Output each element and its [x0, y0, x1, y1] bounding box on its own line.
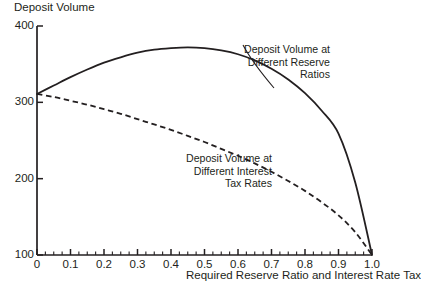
- y-tick-label: 400: [0, 19, 34, 33]
- x-tick-label: 0.4: [155, 258, 187, 272]
- y-tick-label: 300: [0, 95, 34, 109]
- annotation-reserve-line-1: Deposit Volume at: [244, 43, 330, 56]
- annotation-tax-line-2: Different Interest: [186, 165, 272, 178]
- annotation-reserve-ratios: Deposit Volume at Different Reserve Rati…: [244, 43, 330, 81]
- x-tick-label: 0.3: [122, 258, 154, 272]
- x-tick-label: 0.5: [189, 258, 221, 272]
- x-tick-label: 0.1: [55, 258, 87, 272]
- y-tick-label: 200: [0, 172, 34, 186]
- x-tick-label: 0.2: [88, 258, 120, 272]
- x-tick-label: 0.9: [323, 258, 355, 272]
- annotation-tax-line-1: Deposit Volume at: [186, 152, 272, 165]
- annotation-interest-tax: Deposit Volume at Different Interest Tax…: [186, 152, 272, 190]
- x-tick-label: 0.7: [256, 258, 288, 272]
- y-axis-title: Deposit Volume: [14, 1, 95, 15]
- x-tick-label: 0.8: [289, 258, 321, 272]
- annotation-reserve-line-2: Different Reserve: [244, 56, 330, 69]
- x-tick-label: 1.0: [356, 258, 388, 272]
- annotation-tax-line-3: Tax Rates: [186, 177, 272, 190]
- x-tick-label: 0.6: [222, 258, 254, 272]
- x-tick-label: 0: [21, 258, 53, 272]
- annotation-reserve-line-3: Ratios: [244, 68, 330, 81]
